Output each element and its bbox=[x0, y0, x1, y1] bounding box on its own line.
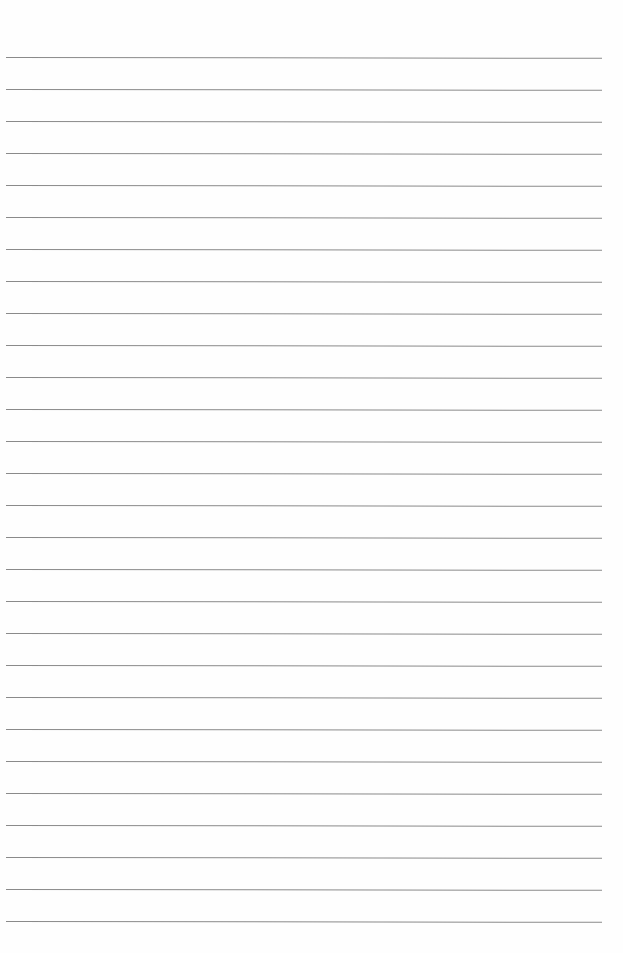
ruled-line bbox=[6, 761, 602, 763]
ruled-line bbox=[6, 889, 602, 891]
ruled-line bbox=[6, 729, 602, 731]
ruled-line bbox=[6, 665, 602, 667]
ruled-line bbox=[6, 473, 602, 475]
ruled-line bbox=[6, 377, 602, 379]
ruled-line bbox=[6, 217, 602, 219]
ruled-line bbox=[6, 345, 602, 347]
ruled-line bbox=[6, 537, 602, 539]
ruled-line bbox=[6, 441, 602, 443]
ruled-line bbox=[6, 57, 602, 59]
ruled-line bbox=[6, 281, 602, 283]
ruled-line bbox=[6, 857, 602, 859]
ruled-line bbox=[6, 921, 602, 923]
ruled-line bbox=[6, 409, 602, 411]
ruled-line bbox=[6, 313, 602, 315]
ruled-line bbox=[6, 601, 602, 603]
ruled-line bbox=[6, 249, 602, 251]
ruled-line bbox=[6, 89, 602, 91]
ruled-line bbox=[6, 793, 602, 795]
ruled-line bbox=[6, 121, 602, 123]
ruled-line bbox=[6, 633, 602, 635]
ruled-line bbox=[6, 697, 602, 699]
ruled-line bbox=[6, 825, 602, 827]
ruled-line bbox=[6, 153, 602, 155]
ruled-paper-page bbox=[0, 0, 623, 953]
ruled-line bbox=[6, 505, 602, 507]
ruled-line bbox=[6, 569, 602, 571]
ruled-line bbox=[6, 185, 602, 187]
